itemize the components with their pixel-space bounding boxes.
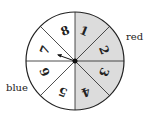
red-label: red bbox=[126, 31, 143, 42]
blue-label: blue bbox=[6, 82, 28, 93]
section-8: 8 bbox=[59, 23, 72, 39]
section-5: 5 bbox=[57, 84, 70, 100]
spinner-arrow-icon bbox=[57, 54, 78, 64]
section-6: 6 bbox=[37, 66, 53, 79]
section-7: 7 bbox=[37, 44, 53, 57]
spinner-diagram: 1 2 3 4 5 6 7 8 bbox=[0, 0, 150, 118]
